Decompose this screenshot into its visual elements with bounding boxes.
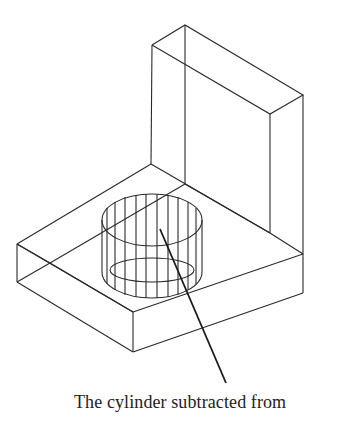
figure-caption: The cylinder subtracted from xyxy=(74,392,348,413)
leader-line xyxy=(160,229,226,383)
wireframe-diagram xyxy=(0,0,348,422)
cylinder xyxy=(102,194,202,298)
upright-wall xyxy=(151,25,303,254)
